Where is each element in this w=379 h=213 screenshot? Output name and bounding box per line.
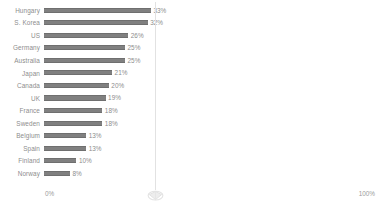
bar-track: 13% — [44, 129, 379, 142]
bar-value-label: 33% — [151, 7, 166, 15]
category-label: UK — [0, 95, 44, 102]
bar-value-label: 21% — [112, 69, 127, 77]
bar[interactable] — [44, 108, 102, 113]
bar-track: 8% — [44, 167, 379, 180]
bar-value-label: 19% — [106, 94, 121, 102]
bar-row: Sweden18% — [0, 117, 379, 130]
bar[interactable] — [44, 45, 125, 50]
bar[interactable] — [44, 158, 76, 163]
bar-track: 18% — [44, 104, 379, 117]
bar[interactable] — [44, 70, 112, 75]
bar-track: 19% — [44, 92, 379, 105]
bar[interactable] — [44, 95, 106, 100]
bar-row: UK19% — [0, 92, 379, 105]
x-axis: 0% 100% — [0, 190, 379, 204]
category-label: Hungary — [0, 7, 44, 14]
bar-value-label: 26% — [128, 32, 143, 40]
bar-track: 25% — [44, 54, 379, 67]
bar-value-label: 13% — [86, 132, 101, 140]
bar[interactable] — [44, 133, 86, 138]
category-label: S. Korea — [0, 19, 44, 26]
bar-track: 18% — [44, 117, 379, 130]
x-axis-max-label: 100% — [359, 190, 375, 198]
bar-row: Japan21% — [0, 67, 379, 80]
bar-row: Australia25% — [0, 54, 379, 67]
x-axis-min-label: 0% — [45, 190, 54, 198]
category-label: France — [0, 107, 44, 114]
bar[interactable] — [44, 83, 109, 88]
bar-track: 25% — [44, 42, 379, 55]
bar-value-label: 18% — [102, 107, 117, 115]
category-label: Finland — [0, 157, 44, 164]
bar[interactable] — [44, 8, 151, 13]
bar[interactable] — [44, 121, 102, 126]
bar-row: Canada20% — [0, 79, 379, 92]
bar-row: S. Korea32% — [0, 17, 379, 30]
bar-value-label: 10% — [76, 157, 91, 165]
category-label: Sweden — [0, 120, 44, 127]
bar-value-label: 25% — [125, 57, 140, 65]
bar-value-label: 20% — [109, 82, 124, 90]
bar-value-label: 8% — [70, 170, 82, 178]
bar-track: 10% — [44, 155, 379, 168]
category-label: US — [0, 32, 44, 39]
bar[interactable] — [44, 33, 128, 38]
bar-row: Norway8% — [0, 167, 379, 180]
bar-chart: Hungary33%S. Korea32%US26%Germany25%Aust… — [0, 0, 379, 213]
bar-row: France18% — [0, 104, 379, 117]
vertical-reference-line — [155, 2, 156, 190]
bar-track: 21% — [44, 67, 379, 80]
bar-row: Finland10% — [0, 155, 379, 168]
bar-track: 33% — [44, 4, 379, 17]
bar[interactable] — [44, 146, 86, 151]
plot-area: Hungary33%S. Korea32%US26%Germany25%Aust… — [0, 4, 379, 184]
category-label: Canada — [0, 82, 44, 89]
category-label: Japan — [0, 70, 44, 77]
bar-value-label: 18% — [102, 120, 117, 128]
bar-row: US26% — [0, 29, 379, 42]
category-label: Norway — [0, 170, 44, 177]
bar-track: 32% — [44, 17, 379, 30]
bar-track: 13% — [44, 142, 379, 155]
bar-row: Belgium13% — [0, 129, 379, 142]
bar-value-label: 13% — [86, 145, 101, 153]
category-label: Spain — [0, 145, 44, 152]
bar-row: Germany25% — [0, 42, 379, 55]
bar[interactable] — [44, 58, 125, 63]
bar-track: 20% — [44, 79, 379, 92]
category-label: Belgium — [0, 132, 44, 139]
category-label: Germany — [0, 44, 44, 51]
bar[interactable] — [44, 20, 148, 25]
bar-value-label: 25% — [125, 44, 140, 52]
bar-track: 26% — [44, 29, 379, 42]
bar[interactable] — [44, 171, 70, 176]
bar-row: Hungary33% — [0, 4, 379, 17]
bar-row: Spain13% — [0, 142, 379, 155]
category-label: Australia — [0, 57, 44, 64]
